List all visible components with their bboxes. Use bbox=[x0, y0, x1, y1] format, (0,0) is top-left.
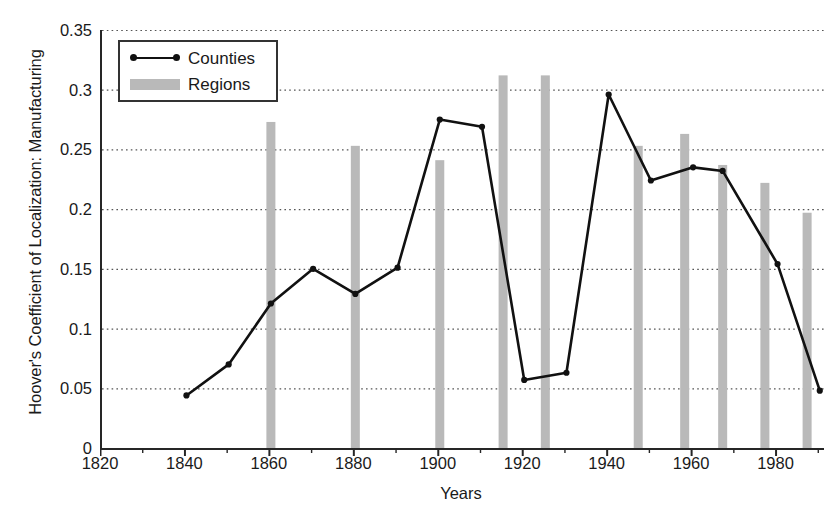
x-axis-title: Years bbox=[100, 484, 822, 503]
legend-label-regions: Regions bbox=[188, 76, 250, 93]
regions-bar-series bbox=[266, 75, 811, 448]
y-tick-label: 0.1 bbox=[0, 321, 98, 338]
chart-legend: Counties Regions bbox=[118, 40, 278, 102]
chart-figure: Hoover's Coefficient of Localization: Ma… bbox=[0, 0, 839, 514]
x-tick-label: 1980 bbox=[731, 454, 821, 472]
x-tick-label: 1960 bbox=[646, 454, 736, 472]
y-tick-label: 0.05 bbox=[0, 380, 98, 397]
line-marker-icon bbox=[130, 52, 180, 64]
y-tick-label: 0.35 bbox=[0, 22, 98, 39]
y-tick-label: 0.2 bbox=[0, 201, 98, 218]
legend-item-counties: Counties bbox=[130, 45, 255, 71]
x-tick-label: 1820 bbox=[55, 454, 145, 472]
y-tick-label: 0.25 bbox=[0, 141, 98, 158]
x-tick-label: 1920 bbox=[477, 454, 567, 472]
legend-item-regions: Regions bbox=[130, 71, 250, 97]
legend-label-counties: Counties bbox=[188, 50, 255, 67]
y-tick-label: 0.15 bbox=[0, 261, 98, 278]
x-tick-label: 1900 bbox=[393, 454, 483, 472]
bar-swatch-icon bbox=[130, 79, 180, 90]
x-tick-label: 1840 bbox=[139, 454, 229, 472]
x-tick-label: 1860 bbox=[224, 454, 314, 472]
y-tick-label: 0.3 bbox=[0, 82, 98, 99]
x-tick-label: 1880 bbox=[308, 454, 398, 472]
x-tick-label: 1940 bbox=[562, 454, 652, 472]
